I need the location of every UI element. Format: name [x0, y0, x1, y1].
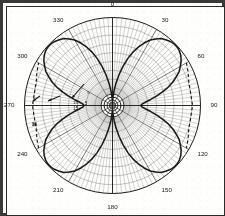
annotation-arrow-left [72, 84, 84, 98]
radial-tick-label: 5 [85, 101, 88, 106]
grid-spoke [119, 115, 164, 177]
polar-chart-svg: 3015503060901201501802102402703003301530… [0, 0, 225, 216]
angular-tick-label: 180 [107, 203, 118, 210]
polar-chart: 3015503060901201501802102402703003301530… [0, 0, 225, 216]
grid-spoke [41, 112, 103, 157]
grid-spoke [81, 23, 108, 94]
angular-tick-label: 240 [17, 150, 28, 157]
angular-tick-label: 270 [4, 101, 15, 108]
angular-tick-label: 0 [111, 0, 115, 7]
grid-spoke [81, 116, 108, 187]
grid-spoke [122, 54, 184, 99]
plot-annotation: 30 [32, 122, 37, 127]
grid-spoke [30, 110, 101, 137]
angular-tick-label: 210 [53, 186, 64, 193]
angular-tick-label: 30 [162, 16, 169, 23]
grid-spoke [122, 112, 184, 157]
angular-tick-label: 60 [197, 52, 204, 59]
angular-tick-label: 300 [17, 52, 28, 59]
angular-tick-label: 150 [162, 186, 173, 193]
grid-spoke [25, 106, 101, 110]
radial-tick-label: 15 [73, 106, 79, 111]
grid-spoke [124, 101, 200, 105]
grid-spoke [117, 23, 144, 94]
angular-tick-label: 90 [211, 101, 218, 108]
grid-spoke [119, 34, 164, 96]
grid-spoke [123, 74, 194, 101]
grid-spoke [61, 34, 106, 96]
angular-tick-label: 330 [53, 16, 64, 23]
plot-annotation: 15 [73, 100, 78, 105]
plot-annotation: 5 [87, 90, 90, 95]
grid-spoke [61, 115, 106, 177]
grid-spoke [25, 101, 101, 105]
grid-spoke [123, 110, 194, 137]
angular-tick-label: 120 [197, 150, 208, 157]
grid-spoke [41, 54, 103, 99]
grid-spoke [117, 116, 144, 187]
grid-spoke [124, 106, 200, 110]
grid-spoke [30, 74, 101, 101]
annotation-arrow-outer [48, 96, 60, 101]
